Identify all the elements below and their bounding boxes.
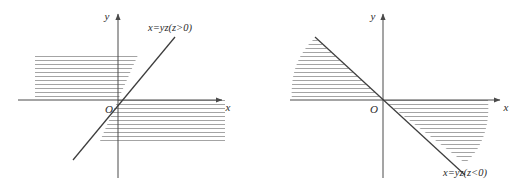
left-equation-label: x=yz(z>0) (147, 22, 192, 34)
left-origin-label: O (105, 103, 113, 115)
left-y-axis-label: y (104, 10, 110, 22)
figure-pair: y x O x=yz(z>0) (0, 0, 519, 192)
figure-panel-right: y x O x=yz(z<0) (260, 0, 519, 192)
right-diagram-svg: y x O x=yz(z<0) (260, 0, 519, 192)
left-x-axis-label: x (225, 101, 231, 113)
right-y-axis-label: y (370, 10, 376, 22)
right-equation-label: x=yz(z<0) (442, 167, 487, 179)
right-x-axis-label: x (503, 101, 509, 113)
right-origin-label: O (370, 103, 378, 115)
left-diagram-svg: y x O x=yz(z>0) (0, 0, 260, 192)
figure-panel-left: y x O x=yz(z>0) (0, 0, 260, 192)
